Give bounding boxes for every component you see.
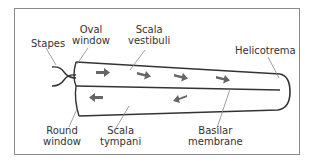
arrow-left-icon <box>89 93 187 103</box>
label-helicotrema: Helicotrema <box>235 45 296 56</box>
label-scala-tympani: Scala tympani <box>100 125 141 147</box>
label-scala-vestibuli: Scala vestibuli <box>128 24 170 46</box>
label-stapes: Stapes <box>31 38 65 49</box>
label-oval-window: Oval window <box>72 24 110 46</box>
label-basilar-membrane: Basilar membrane <box>188 125 243 147</box>
window-line <box>74 62 79 116</box>
label-round-window: Round window <box>43 125 81 147</box>
basilar-membrane-line <box>76 86 280 90</box>
stapes-shape <box>52 67 76 78</box>
stapes-shape-lower <box>52 75 76 86</box>
